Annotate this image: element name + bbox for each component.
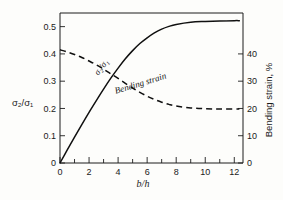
y-tick-label: 0.4: [43, 49, 56, 59]
series-line-sigma-ratio: [60, 21, 239, 163]
x-tick-label: 6: [145, 167, 150, 177]
y-tick-label: 0.2: [43, 104, 56, 114]
x-tick-label: 4: [116, 167, 121, 177]
y2-tick-label: 10: [247, 131, 257, 141]
chart-figure: 00.10.20.30.40.5 010203040 024681012 σ₂/…: [0, 0, 283, 200]
y-tick-label: 0.3: [43, 76, 56, 86]
series-inline-label: σ₂/σ₁: [92, 57, 111, 77]
y-axis-right-ticks: 010203040: [238, 49, 257, 168]
x-tick-label: 0: [57, 167, 62, 177]
y-tick-label: 0.5: [43, 22, 56, 32]
y-tick-label: 0: [51, 158, 56, 168]
y2-tick-label: 20: [247, 104, 257, 114]
x-tick-label: 2: [87, 167, 92, 177]
y-axis-left-title: σ₂/σ₁: [12, 97, 33, 108]
x-tick-label: 8: [174, 167, 179, 177]
x-axis-ticks: 024681012: [57, 157, 239, 177]
chart-svg: 00.10.20.30.40.5 010203040 024681012 σ₂/…: [0, 0, 283, 200]
y-tick-label: 0.1: [43, 131, 56, 141]
y-axis-left-ticks: 00.10.20.30.40.5: [43, 22, 65, 168]
y-axis-right-title: Bending strain, %: [263, 62, 274, 137]
y2-tick-label: 30: [247, 76, 257, 86]
y2-tick-label: 0: [247, 158, 252, 168]
x-axis-title: b/h: [137, 178, 150, 189]
data-series-group: [60, 21, 239, 163]
x-tick-label: 12: [229, 167, 239, 177]
y2-tick-label: 40: [247, 49, 257, 59]
x-tick-label: 10: [200, 167, 210, 177]
